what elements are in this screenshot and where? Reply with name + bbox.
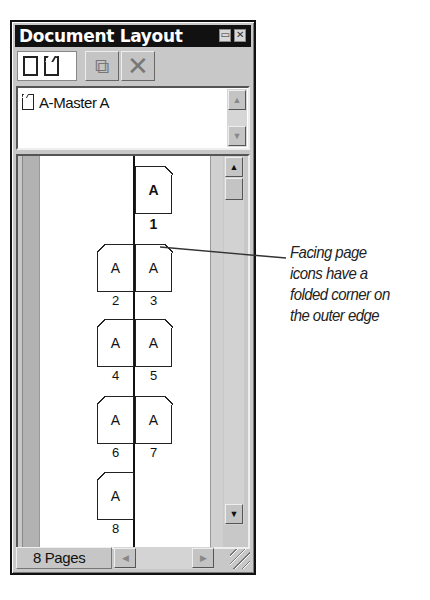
callout-annotation: Facing page icons have a folded corner o… <box>290 242 413 326</box>
callout-line: the outer edge <box>290 305 413 326</box>
callout-line: Facing page <box>290 242 413 263</box>
callout-line: folded corner on <box>290 284 413 305</box>
callout-line: icons have a <box>290 263 413 284</box>
